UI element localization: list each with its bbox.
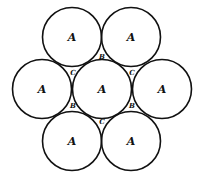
label-a: A	[67, 135, 77, 148]
label-c-upper-left: C	[70, 68, 76, 77]
label-a: A	[126, 135, 136, 148]
label-a: A	[157, 83, 167, 96]
label-b-lower-left: B	[69, 101, 76, 110]
label-a: A	[97, 83, 107, 96]
label-c-bottom: C	[99, 117, 105, 126]
label-a: A	[37, 83, 47, 96]
label-b-lower-right: B	[128, 101, 135, 110]
label-a: A	[126, 31, 136, 44]
circle-labels: A A A A A A A	[37, 31, 167, 148]
label-a: A	[67, 31, 77, 44]
close-packing-diagram: A A A A A A A B C C B B C	[0, 0, 201, 180]
label-c-upper-right: C	[129, 68, 135, 77]
label-b-top: B	[98, 52, 105, 61]
